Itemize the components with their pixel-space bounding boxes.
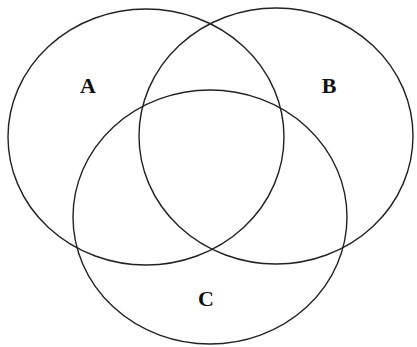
set-c-label: C bbox=[198, 286, 214, 311]
set-b-ellipse bbox=[139, 8, 413, 264]
set-a-ellipse bbox=[8, 9, 284, 265]
venn-diagram: A B C bbox=[0, 0, 417, 347]
set-a-label: A bbox=[80, 73, 96, 98]
set-b-label: B bbox=[322, 73, 337, 98]
